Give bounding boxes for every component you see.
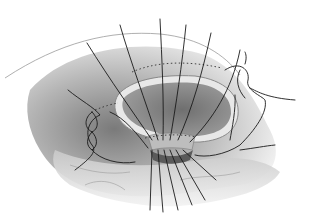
surgical-illustration	[0, 0, 313, 224]
suture-loop-right	[245, 52, 246, 64]
suture-cuff	[148, 133, 195, 150]
